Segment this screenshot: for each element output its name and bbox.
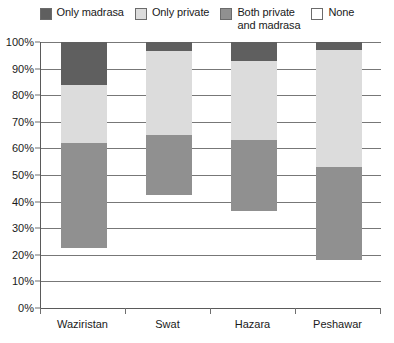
chart-plot-area: 0%10%20%30%40%50%60%70%80%90%100% Waziri… [0, 36, 394, 343]
bar-segment [146, 135, 192, 195]
bar-segment [316, 50, 362, 167]
legend-item-label: None [328, 6, 354, 19]
bar-segment [231, 211, 277, 308]
bar-segment [146, 195, 192, 308]
bar-segment [61, 143, 107, 248]
bar-segment [316, 167, 362, 260]
bar-hazara [231, 42, 277, 308]
legend-swatch-icon [311, 8, 323, 20]
y-axis-tick-label: 90% [12, 63, 34, 75]
y-axis-tick-label: 80% [12, 89, 34, 101]
x-axis-tick-label: Waziristan [57, 318, 108, 330]
legend-item-label: Only private [152, 6, 210, 19]
bar-segment [316, 260, 362, 308]
bar-segment [61, 42, 107, 85]
bar-segment [61, 248, 107, 308]
bar-segment [61, 85, 107, 144]
x-axis-tick-mark [295, 308, 296, 314]
legend-item: None [311, 6, 354, 20]
y-axis-tick-label: 50% [12, 169, 34, 181]
x-axis-tick-label: Swat [155, 318, 179, 330]
bar-segment [231, 42, 277, 61]
legend-item: Only madrasa [40, 6, 124, 20]
x-axis-tick-label: Peshawar [313, 318, 362, 330]
legend-item: Both private and madrasa [220, 6, 300, 31]
bar-segment [146, 42, 192, 51]
x-axis-tick-mark [125, 308, 126, 314]
bar-segment [146, 51, 192, 135]
y-axis: 0%10%20%30%40%50%60%70%80%90%100% [0, 36, 40, 311]
y-axis-tick-label: 60% [12, 142, 34, 154]
legend-swatch-icon [40, 8, 52, 20]
y-axis-tick-label: 100% [6, 36, 34, 48]
y-axis-tick-label: 70% [12, 116, 34, 128]
y-axis-tick-label: 40% [12, 196, 34, 208]
y-axis-tick-label: 0% [18, 302, 34, 314]
bar-segment [231, 140, 277, 210]
chart-legend: Only madrasaOnly privateBoth private and… [0, 6, 394, 38]
plot-canvas [40, 42, 381, 309]
x-axis-tick-mark [40, 308, 41, 314]
x-axis-tick-mark [380, 308, 381, 314]
legend-item: Only private [135, 6, 210, 20]
bar-waziristan [61, 42, 107, 308]
x-axis-tick-label: Hazara [235, 318, 270, 330]
legend-swatch-icon [220, 8, 232, 20]
legend-swatch-icon [135, 8, 147, 20]
bar-segment [231, 61, 277, 141]
y-axis-tick-label: 30% [12, 222, 34, 234]
x-axis: WaziristanSwatHazaraPeshawar [40, 308, 381, 343]
bar-swat [146, 42, 192, 308]
legend-item-label: Both private and madrasa [237, 6, 300, 31]
legend-item-label: Only madrasa [57, 6, 124, 19]
bar-peshawar [316, 42, 362, 308]
y-axis-tick-label: 10% [12, 275, 34, 287]
bar-segment [316, 42, 362, 50]
y-axis-tick-label: 20% [12, 249, 34, 261]
x-axis-tick-mark [210, 308, 211, 314]
